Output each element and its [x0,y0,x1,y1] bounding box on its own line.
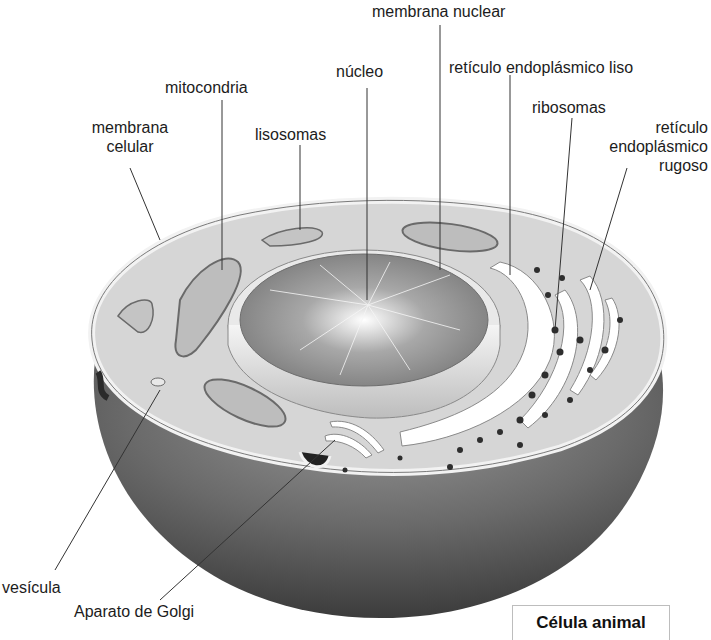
label-membrana-celular: membrana celular [80,118,180,156]
label-reticulo-liso: retículo endoplásmico liso [449,58,633,77]
vesicle [151,378,165,386]
figure-title-box: Célula animal [512,605,670,640]
label-reticulo-rugoso-line2: endoplásmico [580,137,708,156]
label-reticulo-rugoso-line3: rugoso [580,156,708,175]
label-vesicula: vesícula [2,578,61,597]
label-golgi: Aparato de Golgi [74,602,194,621]
figure-title: Célula animal [536,613,646,633]
label-reticulo-rugoso-line1: retículo [580,118,708,137]
label-lisosomas: lisosomas [255,125,326,144]
label-membrana-celular-line1: membrana [80,118,180,137]
label-nucleo: núcleo [336,62,383,81]
nucleus [240,254,488,386]
label-ribosomas: ribosomas [532,98,606,117]
label-mitocondria: mitocondria [165,78,248,97]
label-membrana-nuclear: membrana nuclear [372,2,505,21]
label-reticulo-rugoso: retículo endoplásmico rugoso [580,118,708,175]
label-membrana-celular-line2: celular [80,137,180,156]
